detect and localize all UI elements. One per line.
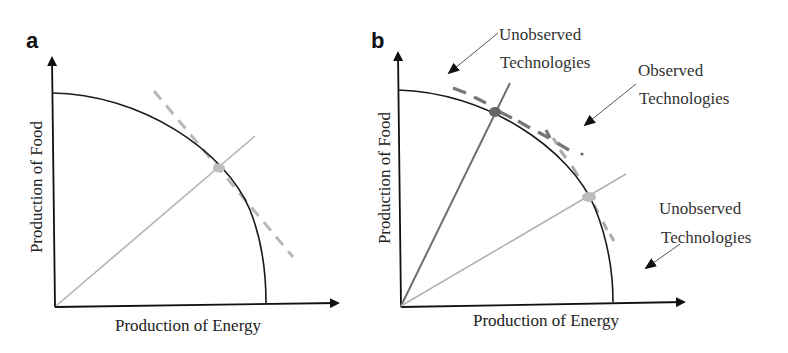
panel-b: b bbox=[371, 25, 751, 330]
annotation-unobserved-right: Unobserved Technologies bbox=[646, 199, 751, 268]
panel-b-x-axis-label: Production of Energy bbox=[473, 311, 620, 330]
dash-segment bbox=[560, 150, 566, 158]
annotation-line2: Technologies bbox=[639, 89, 729, 108]
annotation-arrow-icon bbox=[449, 33, 498, 73]
panel-a-label: a bbox=[26, 28, 39, 53]
annotation-line2: Technologies bbox=[500, 53, 590, 72]
panel-a-technology-ray bbox=[56, 136, 255, 306]
panel-a-frontier-curve bbox=[52, 93, 266, 303]
annotation-line1: Unobserved bbox=[499, 25, 582, 44]
panel-b-dark-tangent-segments bbox=[453, 88, 584, 156]
panel-b-dark-observed-point bbox=[489, 107, 501, 117]
panel-a-x-axis bbox=[55, 303, 338, 307]
panel-a: a Production of Energy Production of Foo… bbox=[26, 28, 338, 335]
annotation-arrow-icon bbox=[646, 244, 680, 268]
panel-a-y-axis bbox=[52, 58, 55, 307]
panel-b-x-axis bbox=[401, 302, 684, 307]
panel-b-light-observed-point bbox=[582, 192, 596, 202]
panel-a-y-axis-label: Production of Food bbox=[27, 120, 46, 253]
annotation-observed: Observed Technologies bbox=[585, 61, 729, 125]
ppf-diagram: a Production of Energy Production of Foo… bbox=[0, 0, 788, 353]
annotation-arrow-icon bbox=[585, 84, 636, 125]
dash-segment bbox=[557, 143, 569, 150]
panel-b-y-axis bbox=[398, 53, 401, 307]
annotation-line1: Observed bbox=[638, 61, 704, 80]
panel-b-y-axis-label: Production of Food bbox=[375, 111, 394, 244]
panel-b-frontier-curve bbox=[398, 90, 613, 302]
dash-segment bbox=[453, 88, 466, 93]
panel-a-observed-point bbox=[213, 164, 225, 173]
annotation-line1: Unobserved bbox=[659, 199, 742, 218]
panel-a-tangent-line bbox=[154, 91, 293, 257]
dash-segment bbox=[474, 97, 486, 103]
dash-dot bbox=[580, 152, 583, 155]
dash-segment bbox=[610, 234, 614, 241]
annotation-line2: Technologies bbox=[661, 228, 751, 247]
annotation-unobserved-top: Unobserved Technologies bbox=[449, 25, 590, 73]
panel-b-label: b bbox=[371, 28, 384, 53]
dash-segment bbox=[603, 222, 607, 230]
dash-segment bbox=[553, 138, 557, 144]
panel-a-x-axis-label: Production of Energy bbox=[115, 316, 262, 335]
